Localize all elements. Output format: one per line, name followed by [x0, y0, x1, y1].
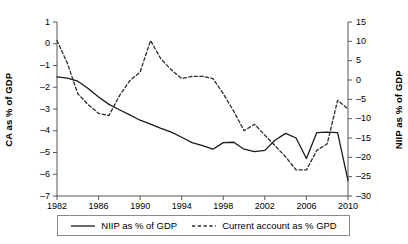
series-line-current-account	[57, 40, 348, 169]
chart-figure: CA as % of GDP NIIP as % of GDP 10–1–2–3…	[0, 0, 408, 244]
chart-legend: NIIP as % of GDP Current account as % GP…	[57, 215, 350, 236]
legend-swatch-solid	[70, 223, 96, 229]
legend-label-niip: NIIP as % of GDP	[101, 221, 177, 231]
legend-item-niip: NIIP as % of GDP	[70, 221, 177, 231]
legend-swatch-dashed	[191, 223, 217, 229]
series-line-niip	[57, 77, 348, 181]
plot-area	[0, 0, 408, 244]
axis-spines	[53, 22, 352, 200]
legend-label-current-account: Current account as % GPD	[222, 221, 337, 231]
series-paths	[57, 40, 348, 180]
legend-item-current-account: Current account as % GPD	[191, 221, 337, 231]
